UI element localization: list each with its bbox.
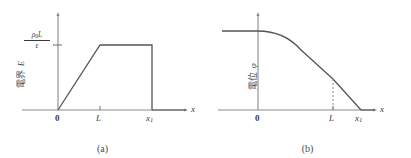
x-axis-name-a: x: [191, 104, 195, 114]
x-tick-label-a-L: L: [96, 113, 101, 123]
y-axis-label-b-kanji: 電位: [248, 71, 258, 90]
y-axis-tip-b: [256, 12, 259, 16]
y-axis-label-a-kanji: 電界: [16, 69, 26, 88]
panel-b-plot: [205, 0, 411, 158]
x-tick-label-a-x1: x1: [146, 113, 153, 123]
y-tick-label-a-fraction: ρ0L ε: [24, 31, 50, 50]
y-axis-tip-a: [56, 12, 59, 16]
x-tick-label-a-0: 0: [55, 113, 60, 123]
fraction-denominator: ε: [24, 42, 50, 50]
field-curve-a: [58, 45, 152, 110]
y-axis-label-a-symbol: E: [16, 60, 26, 66]
x-axis-name-b: x: [380, 104, 384, 114]
x-tick-label-b-0: 0: [255, 113, 260, 123]
fraction-numerator: ρ0L: [24, 31, 50, 40]
x-tick-label-b-x1: x1: [355, 113, 362, 123]
figure-container: 電界 E ρ0L ε 0 L x1 x (a): [0, 0, 411, 158]
x-tick-label-b-L: L: [329, 113, 334, 123]
panel-b-caption: (b): [205, 143, 410, 154]
panel-a: 電界 E ρ0L ε 0 L x1 x (a): [0, 0, 205, 158]
potential-curve-b: [222, 31, 361, 110]
y-axis-label-b-symbol: φ: [248, 63, 258, 68]
panel-b: 電位 φ 0 L x1 x (b): [205, 0, 410, 158]
y-axis-label-a: 電界 E: [14, 60, 27, 88]
y-axis-label-b: 電位 φ: [246, 63, 259, 90]
panel-a-plot: [0, 0, 205, 158]
panel-a-caption: (a): [0, 143, 205, 154]
